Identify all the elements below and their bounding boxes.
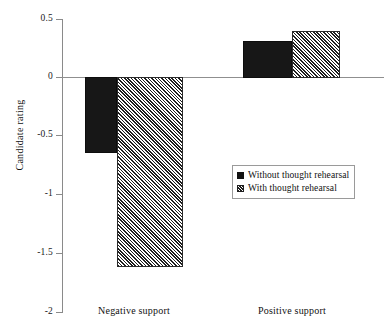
y-axis-tick-label-neg1.5: -1.5 [7, 248, 53, 258]
y-axis-tick-neg1 [56, 194, 63, 195]
bar-negative-support-with-rehearsal [117, 77, 183, 267]
y-axis-title: Candidate rating [15, 75, 25, 195]
bar-positive-support-without-rehearsal [243, 41, 292, 78]
bar-chart-figure: 0.5 0 -0.5 -1 -1.5 -2 Candidate rating N… [0, 0, 387, 332]
y-axis-tick-label-0: 0 [7, 72, 53, 82]
legend-label-without-rehearsal: Without thought rehearsal [248, 170, 349, 181]
y-axis-tick-label-0.5: 0.5 [7, 14, 53, 24]
y-axis-tick-0.5 [56, 19, 63, 20]
y-axis-tick-label-neg2: -2 [7, 307, 53, 317]
x-axis-label-positive-support: Positive support [222, 305, 362, 316]
x-axis-label-negative-support: Negative support [64, 305, 204, 316]
y-axis-line [62, 19, 63, 313]
y-axis-tick-neg1.5 [56, 253, 63, 254]
chart-legend: Without thought rehearsal With thought r… [232, 165, 355, 199]
legend-item-without-rehearsal: Without thought rehearsal [237, 169, 349, 182]
y-axis-tick-neg0.5 [56, 135, 63, 136]
legend-swatch-hatched-icon [237, 185, 244, 192]
bar-negative-support-without-rehearsal [85, 77, 117, 153]
legend-item-with-rehearsal: With thought rehearsal [237, 182, 349, 195]
legend-label-with-rehearsal: With thought rehearsal [248, 183, 337, 194]
y-axis-tick-neg2 [56, 312, 63, 313]
y-axis-tick-label-neg1: -1 [7, 189, 53, 199]
legend-swatch-solid-icon [237, 172, 244, 179]
bar-positive-support-with-rehearsal [292, 31, 340, 78]
